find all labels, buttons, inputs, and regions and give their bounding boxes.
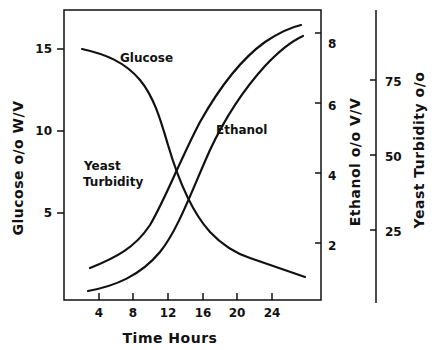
yeast-annotation-line1: Yeast [83, 159, 121, 173]
yeast-tick-75: 75 [385, 75, 402, 89]
ethanol-tick-6: 6 [328, 99, 336, 113]
left-tick-15: 15 [35, 42, 52, 56]
left-axis-ticks: 15 10 5 [35, 42, 64, 220]
plot-frame [64, 10, 321, 300]
yeast-annotation-line2: Turbidity [83, 175, 143, 189]
fermentation-chart: 15 10 5 4 8 12 16 20 24 8 6 4 2 75 50 25 [0, 0, 437, 350]
x-tick-20: 20 [229, 306, 246, 320]
left-axis-title: Glucose o/o W/V [10, 101, 26, 236]
yeast-tick-50: 50 [385, 150, 402, 164]
ethanol-axis-ticks: 8 6 4 2 [315, 33, 336, 253]
ethanol-annotation: Ethanol [216, 123, 267, 137]
ethanol-tick-2: 2 [328, 239, 336, 253]
x-tick-12: 12 [160, 306, 177, 320]
x-tick-4: 4 [95, 306, 103, 320]
yeast-axis-title: Yeast Turbidity o/o [411, 72, 427, 230]
left-tick-5: 5 [44, 206, 52, 220]
x-tick-24: 24 [264, 306, 281, 320]
yeast-axis-ticks: 75 50 25 [370, 75, 402, 239]
glucose-annotation: Glucose [120, 51, 173, 65]
ethanol-axis-title: Ethanol o/o V/V [347, 98, 363, 226]
x-tick-8: 8 [129, 306, 137, 320]
x-axis-ticks: 4 8 12 16 20 24 [95, 293, 281, 320]
ethanol-tick-8: 8 [328, 37, 336, 51]
x-axis-title: Time Hours [123, 330, 218, 346]
left-tick-10: 10 [35, 124, 52, 138]
x-tick-16: 16 [195, 306, 212, 320]
ethanol-tick-4: 4 [328, 169, 336, 183]
yeast-tick-25: 25 [385, 225, 402, 239]
